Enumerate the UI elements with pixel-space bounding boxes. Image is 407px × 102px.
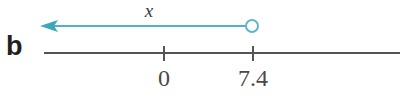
number-line-figure: b x 0 7.4 [0,0,407,102]
number-line-graphic [0,0,407,102]
tick-label-7-4: 7.4 [218,64,288,92]
tick-label-0: 0 [129,64,199,92]
open-circle-endpoint-icon [246,20,258,32]
